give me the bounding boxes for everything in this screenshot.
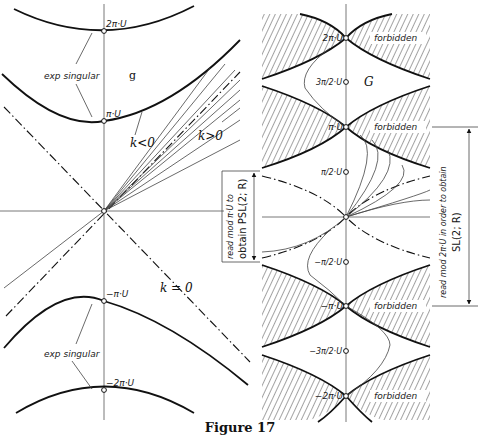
label-r-3pi2: 3π/2·U: [316, 78, 342, 87]
point-2pi: [102, 29, 107, 34]
leader-k-neg: [135, 112, 142, 135]
ray-family: [4, 64, 240, 288]
label-neg-pi-U: −π·U: [106, 289, 129, 299]
label-r-2pi: 2π·U: [322, 33, 343, 43]
psl-note-line1: read mod π·U to: [226, 194, 235, 259]
label-k-negative: k<0: [130, 136, 155, 150]
sl-side-note: read mod 2π·U in order to obtain SL(2; R…: [432, 127, 478, 306]
label-exp-singular-top: exp singular: [44, 71, 101, 81]
label-exp-singular-bottom: exp singular: [44, 349, 101, 359]
sl-note-line1: read mod 2π·U in order to obtain: [439, 166, 448, 298]
figure-17: 2π·U π·U −π·U −2π·U exp singular exp sin…: [0, 0, 480, 438]
leader-exp-bot-a: [76, 304, 92, 344]
hyperbola-neg-pi: [4, 297, 248, 385]
sl-note-line2: SL(2; R): [451, 212, 462, 252]
forbidden-label-4: forbidden: [374, 391, 418, 401]
psl-note-line2: obtain PSL(2; R): [237, 178, 248, 259]
label-r-pi2: π/2·U: [321, 168, 342, 177]
forbidden-label-3: forbidden: [374, 301, 418, 311]
label-k-zero: k = 0: [160, 281, 193, 295]
label-r-pi: π·U: [328, 122, 343, 132]
label-r-neg-2pi: −2π·U: [315, 391, 344, 401]
forbidden-label-1: forbidden: [374, 33, 418, 43]
point-pi: [102, 119, 107, 124]
leader-exp-top-b: [76, 84, 92, 117]
label-group-G: G: [364, 75, 374, 89]
label-r-neg-pi2: −π/2·U: [314, 258, 342, 267]
forbidden-label-2: forbidden: [374, 122, 418, 132]
leader-exp-bot-b: [72, 361, 92, 389]
asymptote-k0-a: [4, 107, 250, 362]
leader-k-pos: [222, 108, 240, 122]
label-2pi-U: 2π·U: [106, 19, 127, 29]
right-panel-group: 2π·U 3π/2·U π·U π/2·U −π/2·U −π·U −3π/2·…: [262, 4, 430, 422]
label-pi-U: π·U: [106, 109, 121, 119]
point-neg-pi: [102, 299, 107, 304]
point-origin-left: [102, 209, 107, 214]
left-panel-lie-algebra: 2π·U π·U −π·U −2π·U exp singular exp sin…: [0, 4, 250, 420]
point-neg-2pi: [102, 388, 107, 393]
label-k-positive: k>0: [198, 129, 223, 143]
label-r-neg-pi: −π·U: [321, 301, 344, 311]
psl-side-note: read mod π·U to obtain PSL(2; R): [222, 171, 260, 262]
label-algebra-g: g: [129, 69, 136, 82]
label-neg-2pi-U: −2π·U: [106, 378, 135, 388]
label-r-neg-3pi2: −3π/2·U: [309, 347, 342, 356]
leader-exp-top-a: [76, 33, 92, 64]
figure-caption: Figure 17: [205, 420, 275, 435]
